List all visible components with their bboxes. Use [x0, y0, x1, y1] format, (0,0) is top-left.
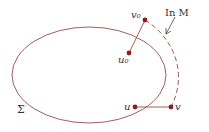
- label-v0: v₀: [131, 10, 141, 20]
- label-sigma: Σ: [17, 104, 25, 115]
- label-u0: u₀: [118, 55, 128, 65]
- point-v: [169, 105, 174, 110]
- point-v0: [143, 18, 148, 23]
- label-v: v: [175, 102, 181, 112]
- dashed-path-in-m: [145, 20, 179, 107]
- segment-u0-v0: [129, 20, 145, 53]
- label-in-m: In M: [165, 8, 189, 18]
- arrow-icon: [166, 17, 175, 34]
- sigma-ellipse: [12, 27, 166, 123]
- label-u: u: [124, 102, 130, 112]
- diagram-canvas: [0, 0, 209, 132]
- point-u: [133, 105, 138, 110]
